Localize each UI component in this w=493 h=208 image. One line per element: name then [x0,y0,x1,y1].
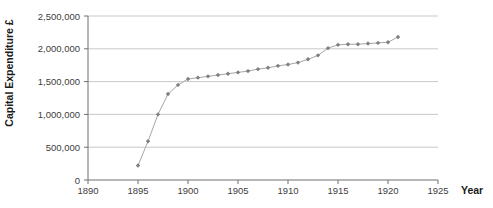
x-tick-label: 1895 [127,185,148,196]
data-point-marker [236,70,240,74]
y-tick-label: 0 [75,175,80,186]
axes [84,16,438,184]
y-tick-label: 1,000,000 [38,109,80,120]
data-point-marker [366,41,370,45]
data-point-marker [296,60,300,64]
x-tick-label: 1890 [77,185,98,196]
data-point-marker [186,77,190,81]
data-point-marker [336,43,340,47]
y-tick-label: 1,500,000 [38,76,80,87]
x-tick-label: 1915 [327,185,348,196]
y-tick-label: 2,500,000 [38,11,80,22]
data-point-marker [256,67,260,71]
data-point-marker [396,35,400,39]
data-point-marker [246,69,250,73]
data-point-marker [156,112,160,116]
data-point-marker [286,62,290,66]
line-chart: 0500,0001,000,0001,500,0002,000,0002,500… [0,0,493,208]
x-tick-label: 1905 [227,185,248,196]
x-axis-title: Year [461,184,483,196]
data-point-marker [356,42,360,46]
tick-labels: 0500,0001,000,0001,500,0002,000,0002,500… [38,11,449,197]
x-tick-label: 1925 [427,185,448,196]
data-series [136,35,400,168]
y-tick-label: 2,000,000 [38,43,80,54]
y-axis-title: Capital Expenditure £ [3,19,15,127]
x-tick-label: 1900 [177,185,198,196]
data-point-marker [146,139,150,143]
gridlines [88,16,438,147]
data-point-marker [216,73,220,77]
data-point-marker [206,74,210,78]
data-point-marker [306,57,310,61]
x-tick-label: 1920 [377,185,398,196]
data-point-marker [376,41,380,45]
data-point-marker [226,72,230,76]
data-line [138,37,398,166]
data-point-marker [196,75,200,79]
y-tick-label: 500,000 [46,142,80,153]
data-point-marker [136,163,140,167]
x-tick-label: 1910 [277,185,298,196]
data-point-marker [276,64,280,68]
data-point-marker [266,66,270,70]
capital-expenditure-chart: 0500,0001,000,0001,500,0002,000,0002,500… [0,0,493,208]
data-point-marker [346,42,350,46]
data-point-marker [386,40,390,44]
